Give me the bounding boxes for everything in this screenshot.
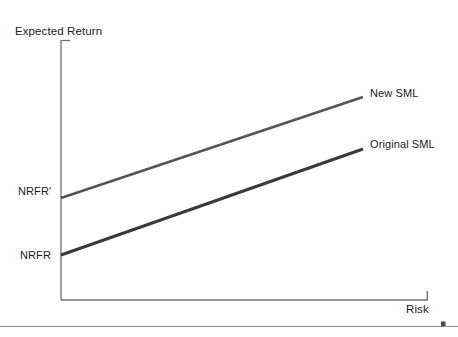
series-label-new-sml: New SML — [370, 87, 418, 100]
chart-canvas — [0, 0, 458, 337]
series-line-original-sml — [61, 149, 363, 255]
y-tick-label-nrfr: NRFR — [20, 249, 51, 262]
sml-chart-figure: Expected Return Risk NRFR' NRFR New SML … — [0, 0, 458, 337]
y-axis-title: Expected Return — [15, 25, 102, 38]
footer-square-marker-icon — [441, 322, 446, 327]
series-line-new-sml — [61, 97, 363, 198]
y-tick-label-nrfr-prime: NRFR' — [18, 185, 51, 198]
x-axis-title: Risk — [406, 303, 429, 316]
x-axis-group — [61, 291, 428, 300]
y-axis-group — [61, 40, 70, 300]
series-label-original-sml: Original SML — [370, 138, 435, 151]
